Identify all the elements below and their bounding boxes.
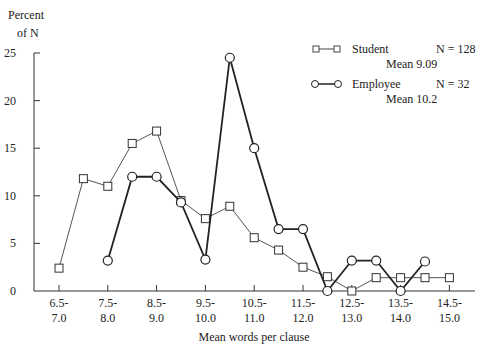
x-tick-label: 12.5- (339, 296, 364, 310)
legend-item-student: Student N = 128 Mean 9.09 (313, 42, 475, 71)
square-marker-icon (128, 139, 136, 147)
circle-marker-icon (225, 53, 234, 62)
legend-mean-student: Mean 9.09 (386, 57, 437, 71)
circle-marker-icon (335, 81, 342, 88)
square-marker-icon (313, 46, 319, 52)
y-tick-label: 20 (4, 94, 16, 108)
legend-mean-employee: Mean 10.2 (386, 92, 437, 106)
circle-marker-icon (128, 172, 137, 181)
x-tick-label: 10.0 (195, 311, 216, 325)
square-marker-icon (226, 202, 234, 210)
circle-marker-icon (396, 287, 405, 296)
x-tick-label: 11.0 (244, 311, 265, 325)
y-ticks: 0510152025 (4, 46, 40, 298)
circle-marker-icon (347, 256, 356, 265)
y-tick-label: 25 (4, 46, 16, 60)
square-marker-icon (201, 215, 209, 223)
x-tick-label: 13.5- (388, 296, 413, 310)
x-tick-label: 6.5- (50, 296, 69, 310)
circle-marker-icon (372, 256, 381, 265)
x-tick-label: 11.5- (291, 296, 316, 310)
x-tick-label: 14.5- (437, 296, 462, 310)
y-tick-label: 5 (10, 236, 16, 250)
x-tick-label: 8.0 (100, 311, 115, 325)
legend-label-employee: Employee (352, 77, 401, 91)
y-axis-label-line1: Percent (8, 8, 45, 22)
legend-item-employee: Employee N = 32 Mean 10.2 (312, 77, 470, 106)
x-axis-label: Mean words per clause (199, 330, 310, 344)
circle-marker-icon (312, 81, 319, 88)
square-marker-icon (445, 274, 453, 282)
square-marker-icon (55, 264, 63, 272)
y-tick-label: 0 (10, 284, 16, 298)
legend: Student N = 128 Mean 9.09 Employee N = 3… (312, 42, 476, 106)
circle-marker-icon (152, 172, 161, 181)
square-marker-icon (104, 182, 112, 190)
circle-marker-icon (177, 198, 186, 207)
line-chart: Percent of N 0510152025 6.5-7.07.5-8.08.… (0, 0, 487, 353)
circle-marker-icon (201, 255, 210, 264)
square-marker-icon (421, 274, 429, 282)
square-marker-icon (153, 127, 161, 135)
circle-marker-icon (103, 256, 112, 265)
x-tick-label: 10.5- (242, 296, 267, 310)
square-marker-icon (372, 274, 380, 282)
x-tick-label: 14.0 (390, 311, 411, 325)
legend-n-employee: N = 32 (436, 77, 469, 91)
square-marker-icon (348, 287, 356, 295)
circle-marker-icon (299, 225, 308, 234)
x-tick-label: 12.0 (293, 311, 314, 325)
square-marker-icon (397, 274, 405, 282)
y-axis-label-line2: of N (17, 26, 39, 40)
x-tick-label: 9.5- (196, 296, 215, 310)
x-tick-label: 7.5- (98, 296, 117, 310)
circle-marker-icon (323, 287, 332, 296)
x-tick-label: 8.5- (147, 296, 166, 310)
square-marker-icon (323, 273, 331, 281)
square-marker-icon (275, 246, 283, 254)
square-marker-icon (79, 175, 87, 183)
circle-marker-icon (250, 144, 259, 153)
x-tick-label: 15.0 (439, 311, 460, 325)
legend-n-student: N = 128 (436, 42, 475, 56)
circle-marker-icon (421, 257, 430, 266)
x-tick-label: 13.0 (341, 311, 362, 325)
circle-marker-icon (274, 225, 283, 234)
y-tick-label: 10 (4, 189, 16, 203)
square-marker-icon (250, 234, 258, 242)
y-tick-label: 15 (4, 141, 16, 155)
square-marker-icon (334, 46, 340, 52)
x-tick-label: 9.0 (149, 311, 164, 325)
legend-label-student: Student (352, 42, 389, 56)
square-marker-icon (299, 263, 307, 271)
x-tick-label: 7.0 (52, 311, 67, 325)
